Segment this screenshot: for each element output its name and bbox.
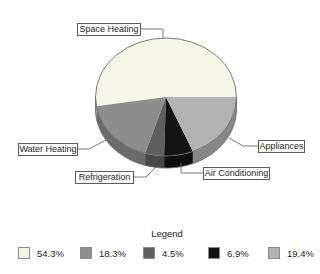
legend-entry-space-heating: 54.3% <box>18 247 64 259</box>
callout-line-appliances <box>229 138 258 146</box>
legend-swatch-refrigeration <box>143 247 155 259</box>
legend-value-water-heating: 18.3% <box>99 248 126 259</box>
callout-appliances: Appliances <box>258 140 305 153</box>
callout-space-heating: Space Heating <box>77 23 141 36</box>
energy-consumption-pie-figure: Space Heating Water Heating Refrigeratio… <box>0 0 320 274</box>
legend-title: Legend <box>17 228 317 239</box>
legend-value-space-heating: 54.3% <box>37 248 64 259</box>
callout-line-space-heating <box>141 29 163 39</box>
legend-entry-water-heating: 18.3% <box>80 247 126 259</box>
legend-value-refrigeration: 4.5% <box>162 248 184 259</box>
callout-refrigeration: Refrigeration <box>75 171 134 184</box>
callout-water-heating: Water Heating <box>18 143 78 156</box>
callout-line-refrigeration <box>134 167 156 177</box>
legend-entry-refrigeration: 4.5% <box>143 247 184 259</box>
legend-entry-air-conditioning: 6.9% <box>208 247 249 259</box>
legend-swatch-water-heating <box>80 247 92 259</box>
legend-swatch-air-conditioning <box>208 247 220 259</box>
legend-swatch-space-heating <box>18 247 30 259</box>
pie-slice-space-heating <box>96 38 237 106</box>
legend-entry-appliances: 19.4% <box>268 247 314 259</box>
callout-air-conditioning: Air Conditioning <box>203 167 270 180</box>
legend-swatch-appliances <box>268 247 280 259</box>
legend-value-air-conditioning: 6.9% <box>227 248 249 259</box>
legend-value-appliances: 19.4% <box>287 248 314 259</box>
